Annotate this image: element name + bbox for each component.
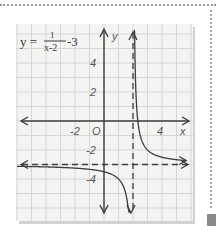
equation-denominator: x-2 [44, 42, 57, 53]
y-tick-label: 2 [89, 86, 96, 98]
equation-numerator: 1 [50, 30, 55, 40]
labels: x y O -2442-2-4 [70, 30, 186, 185]
y-tick-label: -2 [86, 144, 96, 156]
x-axis-label: x [179, 125, 186, 137]
x-tick-label: 4 [157, 125, 163, 137]
right-branch [134, 30, 185, 160]
hyperbola-chart: x y O -2442-2-4 y = 1 x-2 -3 [0, 0, 216, 237]
equation: y = 1 x-2 -3 [20, 30, 78, 53]
y-tick-label: -4 [86, 173, 96, 185]
y-axis-label: y [111, 30, 119, 42]
x-tick-label: -2 [70, 125, 80, 137]
equation-tail: -3 [67, 34, 78, 49]
equation-lhs: y = [20, 34, 37, 49]
origin-label: O [92, 125, 101, 137]
left-branch [17, 166, 131, 212]
y-tick-label: 4 [90, 57, 96, 69]
